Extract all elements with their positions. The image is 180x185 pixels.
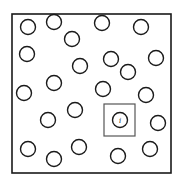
circle: [134, 20, 149, 35]
circle: [21, 20, 36, 35]
particle-diagram: i: [0, 0, 180, 185]
circle: [20, 47, 35, 62]
circle: [73, 59, 88, 74]
circle: [72, 140, 87, 155]
circle: [41, 113, 56, 128]
circle: [143, 142, 158, 157]
circle: [149, 51, 164, 66]
circle: [104, 52, 119, 67]
circle: [21, 142, 36, 157]
circle: [17, 86, 32, 101]
circle: [111, 149, 126, 164]
circle: [47, 152, 62, 167]
circle-group: [17, 15, 166, 167]
circle: [151, 116, 166, 131]
circle: [121, 65, 136, 80]
circle-label: i: [119, 117, 121, 125]
circle: [96, 82, 111, 97]
circle: [68, 103, 83, 118]
circle: [47, 76, 62, 91]
circle: [95, 16, 110, 31]
circle: [65, 32, 80, 47]
circle: [47, 15, 62, 30]
circle: [139, 88, 154, 103]
